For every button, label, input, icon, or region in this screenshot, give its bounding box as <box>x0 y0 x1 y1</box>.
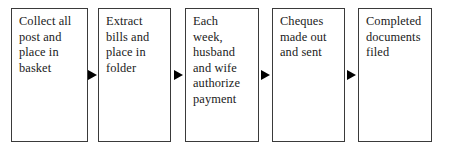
flowchart-node-1-label: Collect all post and place in basket <box>19 14 84 76</box>
flowchart-node-3[interactable]: Each week, husband and wife authorize pa… <box>185 8 259 142</box>
flowchart-node-3-label: Each week, husband and wife authorize pa… <box>193 14 255 108</box>
flowchart-node-2[interactable]: Extract bills and place in folder <box>98 8 171 142</box>
flowchart-node-5-label: Completed documents filed <box>366 14 428 61</box>
flowchart-arrow-1 <box>88 70 97 80</box>
flowchart-node-4[interactable]: Cheques made out and sent <box>272 8 345 142</box>
flowchart-node-4-label: Cheques made out and sent <box>280 14 341 61</box>
flowchart-node-1[interactable]: Collect all post and place in basket <box>11 8 88 142</box>
flowchart-node-5[interactable]: Completed documents filed <box>358 8 432 142</box>
flowchart-arrow-3 <box>261 70 270 80</box>
flowchart-arrow-2 <box>174 70 183 80</box>
flowchart-arrow-4 <box>347 70 356 80</box>
flowchart-canvas: Collect all post and place in basket Ext… <box>0 0 453 150</box>
flowchart-node-2-label: Extract bills and place in folder <box>106 14 167 76</box>
